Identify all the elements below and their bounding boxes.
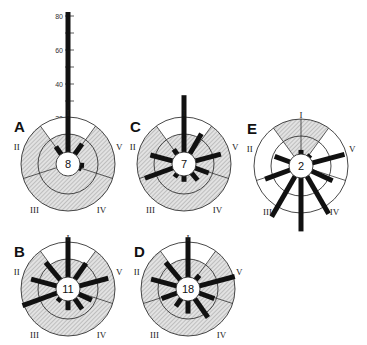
- sector-label-ii: II: [130, 142, 136, 152]
- scale-tick-label: 80: [55, 13, 63, 20]
- sector-label-i: I: [67, 108, 70, 118]
- sector-label-ii: II: [134, 267, 140, 277]
- scale-axis: 80604020: [55, 13, 74, 122]
- sector-label-iv: IV: [330, 207, 340, 217]
- diagram-figure: 80604020 8AIIIIIIIVV7CIIIIIIIVV2EIIIIIII…: [0, 0, 367, 345]
- sector-label-v: V: [236, 267, 243, 277]
- sector-label-i: I: [187, 233, 190, 243]
- rose-panel-c: 7CIIIIIIIVV: [130, 95, 239, 215]
- panel-letter: E: [247, 120, 257, 137]
- rose-panel-e: 2EIIIIIIIVV: [247, 110, 356, 231]
- center-value: 7: [181, 158, 187, 170]
- scale-tick-label: 40: [55, 81, 63, 88]
- sector-label-i: I: [300, 110, 303, 120]
- panel-letter: C: [130, 118, 141, 135]
- panel-letter: D: [134, 243, 145, 260]
- sector-label-iv: IV: [97, 330, 107, 340]
- sector-label-iii: III: [150, 330, 159, 340]
- scale-tick-label: 60: [55, 47, 63, 54]
- panel-letter: A: [14, 118, 25, 135]
- sector-label-ii: II: [14, 142, 20, 152]
- sector-label-ii: II: [247, 144, 253, 154]
- center-value: 11: [62, 283, 73, 295]
- sector-label-iv: IV: [213, 205, 223, 215]
- center-value: 8: [65, 158, 71, 170]
- sector-label-v: V: [349, 144, 356, 154]
- rose-diagram-canvas: 80604020 8AIIIIIIIVV7CIIIIIIIVV2EIIIIIII…: [0, 0, 367, 345]
- rose-panel-b: 11BIIIIIIIVV: [14, 233, 123, 340]
- center-value: 18: [182, 283, 194, 295]
- center-value: 2: [298, 160, 304, 172]
- sector-label-iii: III: [263, 207, 272, 217]
- sector-label-ii: II: [14, 267, 20, 277]
- rose-panel-a: 8AIIIIIIIVV: [14, 12, 123, 215]
- sector-label-iv: IV: [217, 330, 227, 340]
- sector-label-iv: IV: [97, 205, 107, 215]
- sector-label-iii: III: [30, 330, 39, 340]
- sector-label-v: V: [232, 142, 239, 152]
- sector-label-iii: III: [146, 205, 155, 215]
- sector-label-iii: III: [30, 205, 39, 215]
- sector-label-v: V: [116, 142, 123, 152]
- rose-panels: 8AIIIIIIIVV7CIIIIIIIVV2EIIIIIIIVV11BIIII…: [14, 12, 356, 340]
- sector-label-i: I: [67, 233, 70, 243]
- sector-label-i: I: [183, 108, 186, 118]
- sector-label-v: V: [116, 267, 123, 277]
- panel-letter: B: [14, 243, 25, 260]
- rose-panel-d: 18DIIIIIIIVV: [134, 233, 243, 340]
